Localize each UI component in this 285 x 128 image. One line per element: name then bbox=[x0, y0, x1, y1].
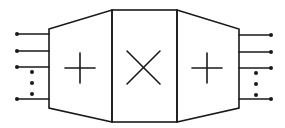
diagram bbox=[0, 0, 285, 128]
diagram-canvas bbox=[0, 0, 285, 128]
right-adder-block bbox=[177, 10, 239, 122]
input-ellipsis-icon bbox=[30, 70, 34, 96]
times-icon bbox=[127, 51, 160, 84]
center-multiplier-block bbox=[112, 10, 177, 122]
plus-icon bbox=[192, 53, 222, 83]
left-adder-block bbox=[49, 10, 112, 122]
output-ellipsis-icon bbox=[254, 71, 258, 97]
output-lines bbox=[239, 33, 273, 101]
plus-icon bbox=[65, 53, 95, 83]
input-lines bbox=[15, 32, 49, 101]
